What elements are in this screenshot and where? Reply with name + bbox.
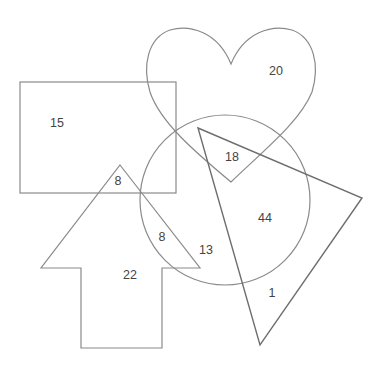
label-rect-only: 15 [50,116,64,130]
label-circle-arrow: 8 [159,230,166,244]
label-circle-only: 13 [199,243,213,257]
label-heart-circle-triangle: 18 [225,150,239,164]
label-rect-arrow: 8 [115,174,122,188]
label-circle-triangle: 44 [258,211,272,225]
venn-diagram: 15 20 18 8 8 13 44 22 1 [0,0,367,365]
label-triangle-only: 1 [269,286,276,300]
triangle-shape [198,128,362,345]
circle-shape [140,115,310,285]
label-arrow-only: 22 [123,268,137,282]
label-heart-only: 20 [269,64,283,78]
